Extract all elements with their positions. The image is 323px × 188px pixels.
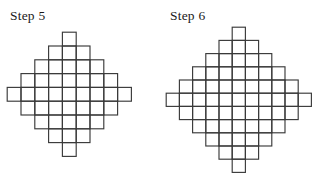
grid-square <box>206 67 219 80</box>
grid-square <box>206 133 219 146</box>
grid-square <box>259 54 272 67</box>
grid-square <box>76 101 90 115</box>
grid-square <box>76 46 90 60</box>
grid-square <box>35 60 49 74</box>
grid-square <box>259 120 272 133</box>
grid-square <box>285 106 298 119</box>
grid-square <box>219 40 232 53</box>
grid-square <box>35 74 49 88</box>
grid-square <box>259 93 272 106</box>
grid-square <box>62 143 76 157</box>
figure-step-6-diagram <box>165 26 313 174</box>
grid-square <box>90 74 104 88</box>
grid-square <box>206 106 219 119</box>
grid-square <box>62 115 76 129</box>
grid-square <box>76 60 90 74</box>
grid-square <box>219 80 232 93</box>
grid-square <box>62 101 76 115</box>
grid-square <box>104 74 118 88</box>
grid-square <box>232 93 245 106</box>
grid-square <box>62 74 76 88</box>
figure-step-5-label: Step 5 <box>10 9 45 23</box>
grid-square <box>76 74 90 88</box>
grid-square <box>245 120 258 133</box>
grid-square <box>21 87 35 101</box>
grid-square <box>193 67 206 80</box>
grid-square <box>49 46 63 60</box>
grid-square <box>193 93 206 106</box>
grid-square <box>232 80 245 93</box>
grid-square <box>179 106 192 119</box>
grid-square <box>21 74 35 88</box>
grid-square <box>193 106 206 119</box>
grid-square <box>76 115 90 129</box>
grid-square <box>166 93 179 106</box>
grid-square <box>35 115 49 129</box>
grid-square <box>245 40 258 53</box>
grid-square <box>272 106 285 119</box>
figure-step-6-label: Step 6 <box>170 9 205 23</box>
grid-square <box>259 133 272 146</box>
grid-square <box>219 146 232 159</box>
grid-square <box>232 54 245 67</box>
figure-page: Step 5 Step 6 <box>0 0 323 188</box>
figure-step-5-diagram <box>6 31 133 158</box>
grid-square <box>245 54 258 67</box>
grid-square <box>62 129 76 143</box>
grid-square <box>76 87 90 101</box>
grid-square <box>219 54 232 67</box>
grid-square <box>49 115 63 129</box>
grid-square <box>49 87 63 101</box>
grid-square <box>232 40 245 53</box>
grid-square <box>49 60 63 74</box>
grid-square <box>193 120 206 133</box>
grid-square <box>206 54 219 67</box>
grid-square <box>49 129 63 143</box>
grid-square <box>62 60 76 74</box>
grid-square <box>272 67 285 80</box>
grid-square <box>49 101 63 115</box>
grid-square <box>232 27 245 40</box>
grid-square <box>206 80 219 93</box>
grid-square <box>7 87 21 101</box>
grid-square <box>219 93 232 106</box>
grid-square <box>62 32 76 46</box>
grid-square <box>245 93 258 106</box>
grid-square <box>245 133 258 146</box>
grid-square <box>272 80 285 93</box>
grid-square <box>21 101 35 115</box>
grid-square <box>206 93 219 106</box>
grid-square <box>245 80 258 93</box>
grid-square <box>232 159 245 172</box>
grid-square <box>285 80 298 93</box>
grid-square <box>193 80 206 93</box>
grid-square <box>179 93 192 106</box>
grid-square <box>245 67 258 80</box>
grid-square <box>232 106 245 119</box>
grid-square <box>35 87 49 101</box>
grid-square <box>259 80 272 93</box>
grid-square <box>245 106 258 119</box>
grid-square <box>206 120 219 133</box>
grid-square <box>90 87 104 101</box>
grid-square <box>232 67 245 80</box>
grid-square <box>219 106 232 119</box>
grid-square <box>62 46 76 60</box>
grid-square <box>272 120 285 133</box>
grid-square <box>259 106 272 119</box>
figure-step-5: Step 5 <box>0 0 161 188</box>
grid-square <box>285 93 298 106</box>
grid-square <box>76 129 90 143</box>
grid-square <box>35 101 49 115</box>
grid-square <box>298 93 311 106</box>
grid-square <box>259 67 272 80</box>
grid-square <box>245 146 258 159</box>
grid-square <box>219 133 232 146</box>
grid-square <box>232 133 245 146</box>
grid-square <box>272 93 285 106</box>
grid-square <box>104 87 118 101</box>
grid-square <box>49 74 63 88</box>
grid-square <box>232 146 245 159</box>
grid-square <box>90 60 104 74</box>
figure-step-6: Step 6 <box>161 0 323 188</box>
